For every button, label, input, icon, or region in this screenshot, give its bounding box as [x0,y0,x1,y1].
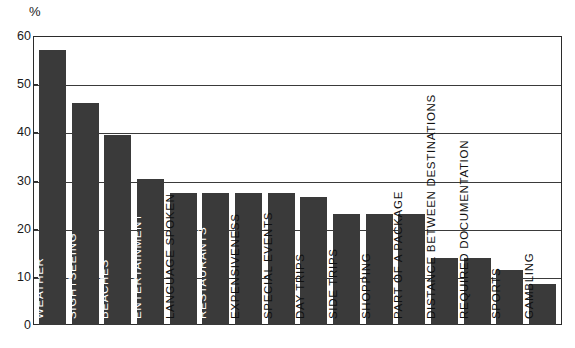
y-axis-tick-label: 30 [5,174,31,187]
bar-category-label: DAY TRIPS [294,253,307,319]
bar-group: SPORTS [496,36,523,325]
bar-group: REQUIRED DOCUMENTATION [464,36,491,325]
bar-category-label: DISTANCE BETWEEN DESTINATIONS [425,94,438,319]
y-axis-tick-mark [33,181,38,182]
bar-group: SHOPPING [366,36,393,325]
bar-group: DISTANCE BETWEEN DESTINATIONS [431,36,458,325]
bar-group: EXPENSIVENESS [235,36,262,325]
bar-series: WEATHERSIGHTSEEINGBEACHESENTERTAINMENTLA… [33,36,562,325]
y-axis-tick-mark [33,229,38,230]
bar-group: WEATHER [39,36,66,325]
bar-category-label: EXPENSIVENESS [229,213,242,319]
bar-category-label: SHOPPING [360,253,373,319]
y-axis-tick-label: 20 [5,222,31,235]
bar-category-label: RESTAURANTS [196,227,209,319]
y-axis-tick-mark [33,84,38,85]
bar-category-label: SPECIAL EVENTS [262,212,275,319]
bar-category-label: SIDE TRIPS [327,248,340,319]
y-axis-tick-label: 60 [5,30,31,43]
bar-category-label: WEATHER [33,257,46,319]
y-axis-tick-mark [33,132,38,133]
bar-group: SIGHTSEEING [72,36,99,325]
bar-group: SPECIAL EVENTS [268,36,295,325]
bar-group: PART OF A PACKAGE [398,36,425,325]
y-axis-unit-label: % [29,4,41,19]
bar-category-label: SPORTS [490,268,503,319]
bar-group: SIDE TRIPS [333,36,360,325]
bar-category-label: BEACHES [98,259,111,319]
y-axis-tick-mark [33,277,38,278]
y-axis: 0102030405060 [0,36,31,325]
bar-category-label: LANGUAGE SPOKEN [164,193,177,319]
y-axis-tick-label: 10 [5,271,31,284]
bar-group: RESTAURANTS [202,36,229,325]
y-axis-tick-label: 50 [5,78,31,91]
y-axis-tick-label: 0 [5,319,31,332]
bar-group: BEACHES [104,36,131,325]
bar-category-label: GAMBLING [523,253,536,319]
bar-category-label: SIGHTSEEING [66,233,79,319]
bar-category-label: REQUIRED DOCUMENTATION [458,140,471,319]
bar-category-label: ENTERTAINMENT [131,213,144,319]
bar-group: ENTERTAINMENT [137,36,164,325]
bar-group: LANGUAGE SPOKEN [170,36,197,325]
bar-group: GAMBLING [529,36,556,325]
chart-screenshot: % 0102030405060 WEATHERSIGHTSEEINGBEACHE… [0,0,575,348]
bar-category-label: PART OF A PACKAGE [392,191,405,319]
bar-group: DAY TRIPS [300,36,327,325]
y-axis-tick-label: 40 [5,126,31,139]
